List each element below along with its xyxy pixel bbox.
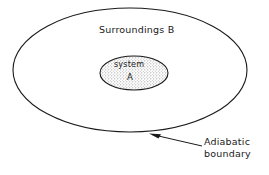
annotation-line-2: boundary <box>204 148 251 160</box>
annotation-arrowhead-icon <box>149 134 161 139</box>
system-letter-label: A <box>127 72 133 82</box>
adiabatic-boundary-annotation: Adiabatic boundary <box>204 136 251 160</box>
annotation-line-1: Adiabatic <box>204 136 251 148</box>
system-label: system <box>114 60 144 69</box>
surroundings-label: Surroundings B <box>99 24 174 35</box>
thermodynamics-diagram: Surroundings B system A Adiabatic bounda… <box>0 0 269 175</box>
